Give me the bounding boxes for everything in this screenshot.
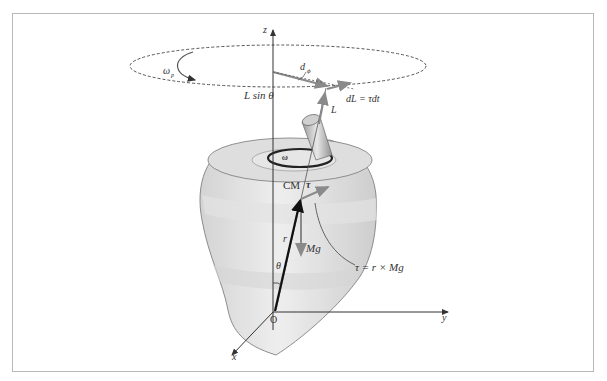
y-axis-label: y xyxy=(441,312,447,323)
angular-momentum-label: L xyxy=(330,104,337,115)
torque-label: τ xyxy=(306,179,311,190)
x-axis-label: x xyxy=(231,351,237,362)
spinning-top-diagram: ω p ω z y x O L sin θ d ϕ xyxy=(0,0,607,381)
z-axis-label: z xyxy=(262,24,267,35)
position-label: r xyxy=(283,233,287,244)
spin-rate-label: ω xyxy=(282,153,288,162)
cm-label: CM xyxy=(283,179,300,191)
precession-arrow-icon xyxy=(177,52,195,80)
dl-vector xyxy=(327,83,350,89)
svg-text:p: p xyxy=(170,72,174,78)
angular-momentum-vector xyxy=(319,93,325,124)
precession-orbit xyxy=(130,45,426,87)
d-phi-label: d xyxy=(300,61,306,72)
gravity-label: Mg xyxy=(305,242,321,254)
theta-label: θ xyxy=(276,260,281,271)
torque-formula-label: τ = r × Mg xyxy=(355,261,404,273)
precession-rate-label: ω xyxy=(163,65,170,76)
svg-text:ϕ: ϕ xyxy=(307,67,311,75)
origin-label: O xyxy=(270,314,277,325)
dl-label: dL = τdt xyxy=(346,93,380,104)
l-sin-theta-label: L sin θ xyxy=(243,89,274,101)
figure-canvas: ω p ω z y x O L sin θ d ϕ xyxy=(0,0,607,381)
